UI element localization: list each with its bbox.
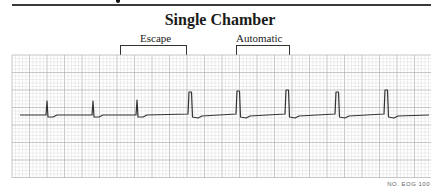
ecg-grid (12, 55, 431, 178)
ecg-strip (0, 0, 440, 196)
footnote: NO. EOG 100 (387, 181, 430, 187)
